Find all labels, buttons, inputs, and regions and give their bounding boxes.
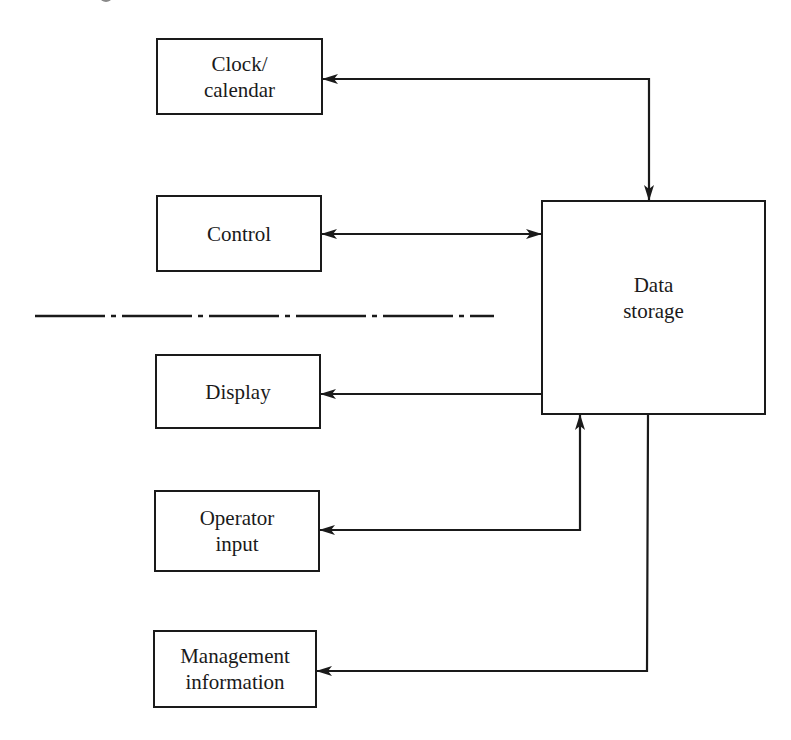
management-information-label-line1: Management [180,643,290,669]
connector-clock-storage [323,79,649,200]
data-storage-label-line2: storage [623,298,684,324]
connector-operator-storage [320,415,580,530]
control-label: Control [207,221,271,247]
control-box: Control [156,195,322,272]
data-storage-box: Data storage [541,200,766,415]
data-storage-label-line1: Data [634,272,674,298]
display-label: Display [205,379,270,405]
management-information-box: Management information [153,630,317,708]
display-box: Display [155,354,321,429]
clock-calendar-label-line1: Clock/ [212,51,268,77]
connector-storage-management [317,415,648,671]
operator-input-box: Operator input [154,490,320,572]
operator-input-label-line1: Operator [200,505,275,531]
operator-input-label-line2: input [215,531,258,557]
clock-calendar-label-line2: calendar [204,77,275,103]
management-information-label-line2: information [185,669,284,695]
clock-calendar-box: Clock/ calendar [156,38,323,115]
